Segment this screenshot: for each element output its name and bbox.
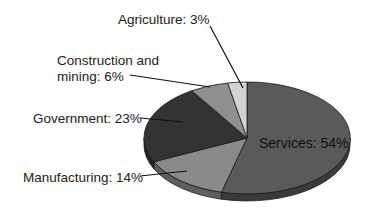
label-government: Government: 23% — [33, 111, 142, 126]
leader-agriculture — [210, 26, 243, 88]
label-agriculture: Agriculture: 3% — [118, 12, 210, 27]
leader-construction — [130, 75, 210, 87]
label-construction-line2: mining: 6% — [57, 69, 124, 84]
label-construction-line1: Construction and — [57, 53, 159, 68]
pie-chart: Agriculture: 3% Construction and mining:… — [0, 0, 371, 218]
label-services: Services: 54% — [259, 135, 348, 151]
label-manufacturing: Manufacturing: 14% — [23, 170, 143, 185]
